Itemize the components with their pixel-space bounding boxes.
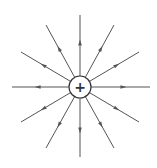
arrow-icon xyxy=(120,85,126,89)
arrow-icon xyxy=(98,121,102,127)
arrow-icon xyxy=(57,46,61,52)
arrow-icon xyxy=(78,127,82,133)
arrow-icon xyxy=(57,121,61,127)
arrow-icon xyxy=(113,64,119,69)
arrow-icon xyxy=(78,39,82,45)
arrow-icon xyxy=(41,106,47,111)
arrow-icon xyxy=(113,106,119,111)
field-diagram: + xyxy=(0,0,157,168)
arrow-icon xyxy=(98,46,102,52)
positive-charge-label: + xyxy=(73,78,87,96)
arrow-icon xyxy=(35,85,41,89)
arrow-icon xyxy=(41,64,47,69)
